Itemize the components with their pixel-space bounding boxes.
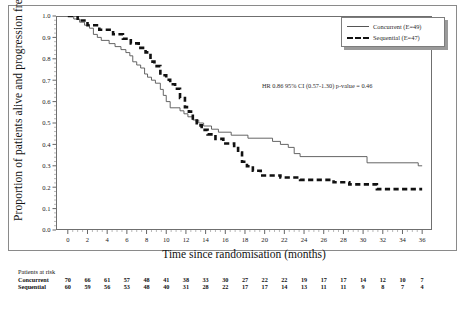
risk-row-concurrent: Concurrent 70666157484138333027222219171… — [18, 276, 458, 283]
legend-label-concurrent: Concurrent (E=49) — [370, 23, 422, 30]
legend-key-solid-icon — [346, 26, 370, 27]
risk-value: 12 — [374, 276, 392, 283]
legend: Concurrent (E=49) Sequential (E=47) — [341, 17, 445, 47]
risk-value: 4 — [413, 283, 431, 290]
risk-value: 17 — [334, 276, 352, 283]
hazard-ratio-annotation: HR 0.86 95% CI (0.57-1.30) p-value = 0.4… — [262, 82, 372, 89]
risk-value: 53 — [118, 283, 136, 290]
risk-value: 27 — [236, 276, 254, 283]
risk-value: 7 — [413, 276, 431, 283]
risk-value: 22 — [256, 276, 274, 283]
risk-value: 17 — [315, 276, 333, 283]
risk-value: 70 — [59, 276, 77, 283]
risk-value: 14 — [275, 283, 293, 290]
risk-value: 28 — [197, 283, 215, 290]
risk-value: 31 — [177, 283, 195, 290]
risk-value: 17 — [236, 283, 254, 290]
risk-value: 48 — [138, 276, 156, 283]
risk-value: 17 — [256, 283, 274, 290]
risk-value: 48 — [138, 283, 156, 290]
risk-table-title: Patients at risk — [18, 268, 458, 275]
risk-value: 30 — [216, 276, 234, 283]
risk-value: 33 — [197, 276, 215, 283]
risk-value: 59 — [78, 283, 96, 290]
risk-row-label-concurrent: Concurrent — [18, 276, 58, 283]
risk-value: 38 — [177, 276, 195, 283]
risk-value: 7 — [393, 283, 411, 290]
risk-value: 57 — [118, 276, 136, 283]
risk-value: 19 — [295, 276, 313, 283]
risk-value: 13 — [295, 283, 313, 290]
risk-value: 41 — [157, 276, 175, 283]
risk-value: 66 — [78, 276, 96, 283]
risk-value: 56 — [98, 283, 116, 290]
risk-value: 9 — [354, 283, 372, 290]
risk-value: 40 — [157, 283, 175, 290]
patients-at-risk-table: Patients at risk Concurrent 706661574841… — [18, 268, 458, 290]
risk-value: 60 — [59, 283, 77, 290]
risk-value: 11 — [334, 283, 352, 290]
y-axis-title: Proportion of patients alive and progres… — [12, 1, 24, 221]
risk-value: 11 — [315, 283, 333, 290]
risk-value: 8 — [374, 283, 392, 290]
legend-key-dashed-icon — [346, 37, 370, 39]
risk-value: 10 — [393, 276, 411, 283]
risk-value: 14 — [354, 276, 372, 283]
risk-row-label-sequential: Sequential — [18, 283, 58, 290]
risk-value: 22 — [275, 276, 293, 283]
chart-page: Proportion of patients alive and progres… — [0, 0, 463, 310]
legend-item-concurrent: Concurrent (E=49) — [346, 21, 440, 32]
x-axis-title: Time since randomisation (months) — [56, 248, 432, 260]
risk-values-concurrent: 7066615748413833302722221917171412107 — [58, 276, 454, 283]
legend-item-sequential: Sequential (E=47) — [346, 32, 440, 43]
legend-label-sequential: Sequential (E=47) — [370, 34, 420, 41]
risk-value: 22 — [216, 283, 234, 290]
risk-values-sequential: 6059565348403128221717141311119874 — [58, 283, 454, 290]
risk-row-sequential: Sequential 60595653484031282217171413111… — [18, 283, 458, 290]
risk-value: 61 — [98, 276, 116, 283]
